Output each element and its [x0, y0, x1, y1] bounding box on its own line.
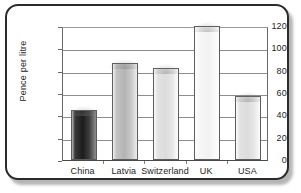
y-axis-title: Pence per litre — [18, 31, 28, 111]
x-tick-mark — [144, 161, 145, 164]
bar-switzerland — [153, 68, 179, 160]
chart-figure: Pence per litre 020406080100120 ChinaLat… — [0, 0, 301, 193]
plot-area — [62, 27, 268, 161]
bar-china — [71, 110, 97, 160]
x-tick-mark — [186, 161, 187, 164]
bar-top-glow — [150, 64, 182, 74]
bar-top-glow — [68, 106, 100, 116]
bar-top-glow — [232, 92, 264, 102]
bar-latvia — [112, 63, 138, 160]
y-tick-mark — [58, 161, 62, 162]
x-tick-mark — [103, 161, 104, 164]
bar-usa — [235, 96, 261, 160]
x-tick-label-usa: USA — [207, 166, 287, 176]
bar-uk — [194, 26, 220, 160]
bar-top-glow — [109, 59, 141, 69]
x-tick-mark — [227, 161, 228, 164]
gridline — [63, 50, 267, 51]
bar-top-glow — [191, 22, 223, 32]
chart-frame: Pence per litre 020406080100120 ChinaLat… — [5, 4, 289, 180]
